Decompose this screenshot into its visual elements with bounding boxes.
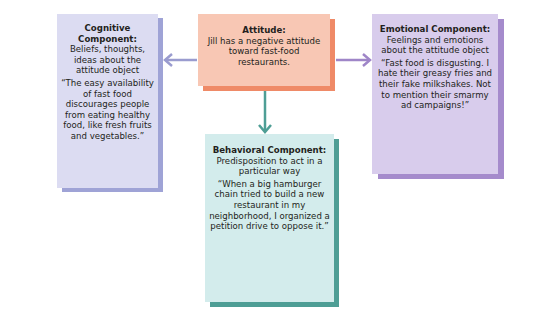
attitude-description: Jill has a negative attitude toward fast… xyxy=(202,36,326,68)
emotional-description: Feelings and emotions about the attitude… xyxy=(376,35,494,56)
arrow-to-cognitive-icon xyxy=(165,54,197,66)
cognitive-quote: “The easy availability of fast food disc… xyxy=(61,78,154,142)
emotional-title: Emotional Component: xyxy=(376,24,494,35)
emotional-quote: “Fast food is disgusting. I hate their g… xyxy=(376,58,494,111)
behavioral-description: Predisposition to act in a particular wa… xyxy=(209,156,330,177)
arrow-to-emotional-icon xyxy=(336,54,370,66)
arrow-to-behavioral-icon xyxy=(259,91,271,132)
cognitive-component-box: Cognitive Component: Beliefs, thoughts, … xyxy=(57,14,158,188)
behavioral-quote: “When a big hamburger chain tried to bui… xyxy=(209,179,330,232)
behavioral-title: Behavioral Component: xyxy=(209,145,330,156)
attitude-box: Attitude: Jill has a negative attitude t… xyxy=(198,14,330,86)
cognitive-description: Beliefs, thoughts, ideas about the attit… xyxy=(61,44,154,76)
behavioral-component-box: Behavioral Component: Predisposition to … xyxy=(205,134,334,302)
attitude-title: Attitude: xyxy=(202,25,326,36)
cognitive-title: Cognitive Component: xyxy=(61,23,154,44)
emotional-component-box: Emotional Component: Feelings and emotio… xyxy=(372,14,498,174)
